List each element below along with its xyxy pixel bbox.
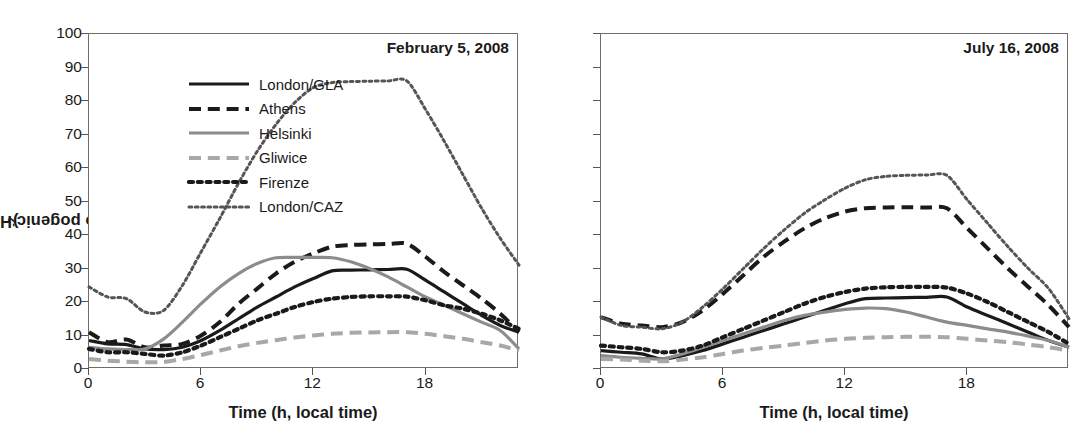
x-tick-mark (600, 368, 601, 375)
legend-label: London/CAZ (251, 198, 343, 215)
y-tick-mark (81, 33, 88, 34)
x-tick-label: 18 (416, 374, 433, 392)
plot-area-summer: July 16, 2008 (600, 33, 1068, 368)
y-tick-mark (593, 234, 600, 235)
dotted-black-line-icon (187, 175, 251, 189)
x-tick-mark (200, 368, 201, 375)
legend-item-london-caz[interactable]: London/CAZ (187, 195, 343, 220)
legend-label: Gliwice (251, 149, 307, 166)
y-tick-mark (81, 134, 88, 135)
y-tick-mark (81, 335, 88, 336)
y-tick-mark (81, 368, 88, 369)
y-tick-mark (593, 301, 600, 302)
y-tick-mark (81, 67, 88, 68)
series-line-gliwice (89, 332, 519, 362)
y-tick-mark (593, 134, 600, 135)
y-tick-mark (593, 268, 600, 269)
y-tick-label: 70 (65, 125, 82, 143)
y-tick-mark (593, 368, 600, 369)
dashed-black-line-icon (187, 102, 251, 116)
x-tick-mark (88, 368, 89, 375)
x-tick-label: 6 (196, 374, 205, 392)
x-tick-mark (844, 368, 845, 375)
y-tick-mark (593, 335, 600, 336)
legend-item-london-gla[interactable]: London/GLA (187, 72, 343, 97)
legend-label: Athens (251, 100, 306, 117)
x-tick-label: 6 (718, 374, 727, 392)
dashed-gray-line-icon (187, 151, 251, 165)
series-lines-summer (601, 34, 1069, 369)
legend-item-athens[interactable]: Athens (187, 97, 343, 122)
x-tick-label: 0 (84, 374, 93, 392)
legend-label: Firenze (251, 174, 309, 191)
y-tick-mark (593, 67, 600, 68)
y-tick-mark (81, 201, 88, 202)
x-tick-label: 12 (304, 374, 321, 392)
panel-summer: July 16, 2008 061218 Time (h, local time… (548, 0, 1092, 443)
x-tick-mark (425, 368, 426, 375)
y-tick-mark (593, 201, 600, 202)
x-tick-label: 18 (958, 374, 975, 392)
y-tick-label: 60 (65, 158, 82, 176)
y-tick-label: 20 (65, 292, 82, 310)
y-tick-label: 100 (56, 24, 82, 42)
plot-area-winter: February 5, 2008 London/GLAAthensHelsink… (88, 33, 518, 368)
y-tick-mark (593, 167, 600, 168)
x-tick-mark (722, 368, 723, 375)
y-tick-label: 80 (65, 91, 82, 109)
y-tick-mark (593, 33, 600, 34)
legend-item-gliwice[interactable]: Gliwice (187, 146, 343, 171)
x-axis-label: Time (h, local time) (88, 403, 518, 422)
y-axis-label: Anthro pogenic Heat Flux (W m-2) (0, 0, 34, 443)
legend-label: London/GLA (251, 76, 343, 93)
x-tick-mark (312, 368, 313, 375)
x-axis-label: Time (h, local time) (600, 403, 1068, 422)
y-tick-mark (81, 100, 88, 101)
x-tick-label: 12 (836, 374, 853, 392)
y-tick-mark (81, 167, 88, 168)
legend-item-firenze[interactable]: Firenze (187, 170, 343, 195)
x-tick-label: 0 (596, 374, 605, 392)
dotted-gray-line-icon (187, 200, 251, 214)
legend-item-helsinki[interactable]: Helsinki (187, 121, 343, 146)
legend-label: Helsinki (251, 125, 312, 142)
x-tick-mark (966, 368, 967, 375)
y-tick-label: 50 (65, 192, 82, 210)
y-tick-mark (81, 268, 88, 269)
solid-black-line-icon (187, 77, 251, 91)
panel-winter: Anthro pogenic Heat Flux (W m-2) 0102030… (0, 0, 548, 443)
y-tick-label: 40 (65, 225, 82, 243)
y-tick-label: 10 (65, 326, 82, 344)
y-tick-mark (593, 100, 600, 101)
solid-gray-line-icon (187, 126, 251, 140)
legend: London/GLAAthensHelsinkiGliwiceFirenzeLo… (187, 72, 343, 219)
y-tick-mark (81, 301, 88, 302)
figure-anthropogenic-heat-flux: Anthro pogenic Heat Flux (W m-2) 0102030… (0, 0, 1092, 443)
x-axis-tick-labels: 061218 (600, 374, 1068, 400)
y-tick-label: 30 (65, 259, 82, 277)
y-tick-label: 90 (65, 58, 82, 76)
y-tick-mark (81, 234, 88, 235)
x-axis-tick-labels: 061218 (88, 374, 518, 400)
